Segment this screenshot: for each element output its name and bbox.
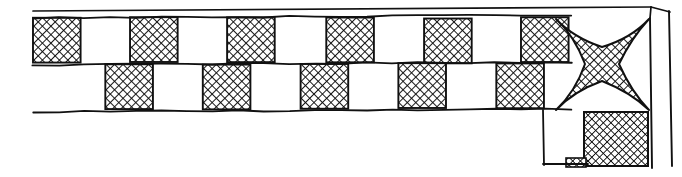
checker-cell-hatched <box>105 64 153 109</box>
checker-cell-hatched <box>130 17 178 62</box>
corner-hatched-square <box>584 112 648 166</box>
checker-cell-hatched <box>227 17 275 62</box>
figure-root: Checkerboard border frieze with corner s… <box>0 0 682 177</box>
checker-cell-hatched <box>424 19 472 64</box>
checker-cell-hatched <box>326 18 374 63</box>
checker-cell-hatched <box>301 64 349 109</box>
corner-hatched-tab <box>566 158 586 167</box>
checker-cell-hatched <box>398 63 446 108</box>
corner-bevel-inner <box>650 7 651 18</box>
left-upright-rule <box>543 110 544 165</box>
frieze-illustration <box>0 0 682 177</box>
checker-cell-hatched <box>496 63 544 108</box>
checker-cell-hatched <box>33 18 81 63</box>
checker-cell-hatched <box>203 65 251 110</box>
